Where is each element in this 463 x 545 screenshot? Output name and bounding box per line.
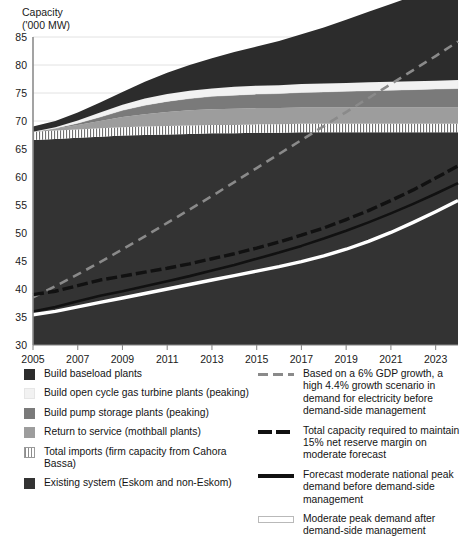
y-tick-label: 60	[15, 171, 27, 183]
y-tick-label: 65	[15, 143, 27, 155]
x-tick-label: 2005	[21, 353, 45, 365]
legend-item[interactable]: Return to service (mothball plants)	[24, 426, 252, 438]
legend-item[interactable]: Moderate peak demand after demand-side m…	[258, 513, 460, 538]
legend-item-label: Build pump storage plants (peaking)	[44, 407, 209, 419]
legend-item[interactable]: Build baseload plants	[24, 368, 252, 380]
legend-item[interactable]: Existing system (Eskom and non-Eskom)	[24, 477, 252, 489]
y-tick-label: 85	[15, 31, 27, 43]
x-tick-label: 2021	[379, 353, 403, 365]
x-tick-label: 2009	[111, 353, 135, 365]
legend-item-label: Build open cycle gas turbine plants (pea…	[44, 387, 249, 399]
y-tick-label: 40	[15, 283, 27, 295]
solid-black-line-icon	[258, 470, 294, 481]
square-swatch-hatched	[24, 447, 35, 458]
square-swatch-dark	[24, 478, 35, 489]
square-swatch-light	[24, 388, 35, 399]
legend-item-label: Build baseload plants	[44, 368, 142, 380]
y-tick-label: 45	[15, 255, 27, 267]
chart-legend: Build baseload plantsBuild open cycle ga…	[0, 368, 463, 545]
legend-item[interactable]: Based on a 6% GDP growth, a high 4.4% gr…	[258, 368, 460, 418]
legend-item[interactable]: Build open cycle gas turbine plants (pea…	[24, 387, 252, 399]
legend-item-label: Moderate peak demand after demand-side m…	[303, 513, 460, 538]
y-tick-label: 50	[15, 227, 27, 239]
x-tick-label: 2011	[156, 353, 179, 365]
x-tick-label: 2015	[245, 353, 269, 365]
y-tick-label: 55	[15, 199, 27, 211]
y-tick-label: 80	[15, 59, 27, 71]
x-tick-label: 2007	[66, 353, 90, 365]
legend-item[interactable]: Build pump storage plants (peaking)	[24, 407, 252, 419]
capacity-stacked-area-chart: 8580757065605550454035302005200720092011…	[0, 0, 463, 368]
x-tick-label: 2019	[334, 353, 358, 365]
square-swatch-medium-gray	[24, 408, 35, 419]
dashed-black-line-icon	[258, 426, 294, 437]
legend-item-label: Return to service (mothball plants)	[44, 426, 201, 438]
legend-column-areas: Build baseload plantsBuild open cycle ga…	[24, 368, 252, 497]
chart-plot-area: 8580757065605550454035302005200720092011…	[0, 0, 463, 368]
legend-item[interactable]: Total imports (firm capacity from Cahora…	[24, 446, 252, 471]
y-tick-label: 35	[15, 311, 27, 323]
legend-item[interactable]: Forecast moderate national peak demand b…	[258, 469, 460, 506]
area-band	[33, 132, 458, 345]
square-swatch-dark	[24, 369, 35, 380]
legend-item-label: Existing system (Eskom and non-Eskom)	[44, 477, 232, 489]
solid-white-line-icon	[258, 514, 294, 525]
legend-column-lines: Based on a 6% GDP growth, a high 4.4% gr…	[258, 368, 460, 545]
legend-item-label: Total capacity required to maintain 15% …	[303, 425, 460, 462]
legend-item-label: Total imports (firm capacity from Cahora…	[44, 446, 252, 471]
x-tick-label: 2023	[424, 353, 448, 365]
dashed-gray-line-icon	[258, 369, 294, 380]
square-swatch-gray	[24, 427, 35, 438]
y-tick-label: 70	[15, 115, 27, 127]
x-tick-label: 2013	[200, 353, 224, 365]
x-tick-label: 2017	[290, 353, 314, 365]
legend-item[interactable]: Total capacity required to maintain 15% …	[258, 425, 460, 462]
legend-item-label: Based on a 6% GDP growth, a high 4.4% gr…	[303, 368, 460, 418]
legend-item-label: Forecast moderate national peak demand b…	[303, 469, 460, 506]
y-tick-label: 30	[15, 339, 27, 351]
chart-page: Capacity ('000 MW) 858075706560555045403…	[0, 0, 463, 545]
y-tick-label: 75	[15, 87, 27, 99]
stacked-areas	[33, 0, 458, 345]
